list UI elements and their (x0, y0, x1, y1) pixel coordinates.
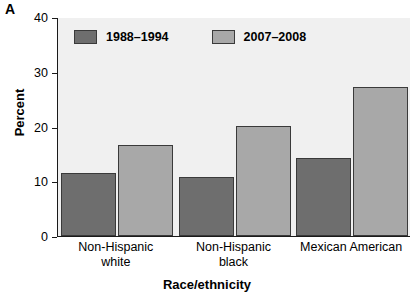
legend-label-2007-2008: 2007–2008 (244, 31, 307, 44)
x-axis-tick-label-line: Non-Hispanic (196, 240, 271, 254)
plot-area (57, 18, 410, 237)
figure-panel-a: A Percent 010203040 1988–1994 2007–2008 … (0, 0, 414, 293)
y-axis-tick-label: 0 (22, 231, 48, 244)
x-axis-tick-label-line: black (165, 255, 303, 270)
legend-label-1988-1994: 1988–1994 (106, 31, 169, 44)
y-axis-tick-labels: 010203040 (22, 0, 48, 293)
bar (61, 173, 116, 236)
legend-item-1988-1994: 1988–1994 (74, 30, 169, 44)
bar (353, 87, 408, 236)
bar (118, 145, 173, 236)
y-axis-tick-label: 30 (22, 67, 48, 80)
legend-item-2007-2008: 2007–2008 (212, 30, 307, 44)
x-axis-tick-labels: Non-HispanicwhiteNon-HispanicblackMexica… (57, 240, 410, 276)
x-axis-tick-label: Mexican American (282, 240, 414, 255)
y-axis-tick-label: 20 (22, 121, 48, 134)
legend-swatch-1988-1994 (74, 30, 97, 44)
chart-legend: 1988–1994 2007–2008 (74, 30, 306, 44)
bar (236, 126, 291, 236)
y-axis-tick-label: 40 (22, 12, 48, 25)
panel-letter-label: A (5, 2, 15, 16)
legend-swatch-2007-2008 (212, 30, 235, 44)
bar (296, 158, 351, 236)
y-axis-tick-mark (52, 237, 57, 238)
y-axis-tick-label: 10 (22, 176, 48, 189)
x-axis-title: Race/ethnicity (0, 278, 414, 291)
x-axis-tick-label-line: Mexican American (300, 240, 402, 254)
bar (179, 177, 234, 236)
x-axis-tick-label-line: Non-Hispanic (78, 240, 153, 254)
